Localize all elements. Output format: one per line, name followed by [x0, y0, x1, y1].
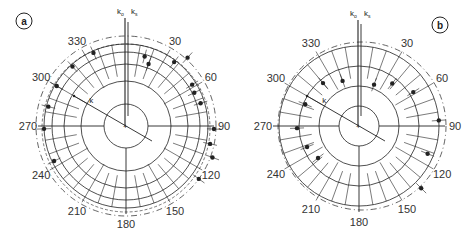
angle-label-180: 180 — [350, 216, 368, 228]
radial-spoke — [112, 45, 118, 77]
data-point — [208, 142, 212, 146]
angle-label-150: 150 — [166, 205, 184, 217]
angle-label-300: 300 — [267, 72, 285, 84]
radial-spoke — [345, 173, 351, 205]
radial-spoke — [164, 82, 202, 104]
data-point — [316, 156, 320, 160]
data-point — [55, 84, 59, 88]
angle-label-120: 120 — [433, 168, 451, 180]
data-point — [46, 104, 50, 108]
data-point — [190, 82, 194, 86]
radial-spoke — [173, 143, 203, 154]
radial-spoke — [45, 135, 77, 141]
radial-spoke — [395, 83, 433, 105]
radial-spoke — [164, 148, 202, 170]
radial-spoke — [280, 112, 312, 118]
radial-spoke — [380, 162, 402, 200]
angle-label-270: 270 — [254, 120, 272, 132]
radial-spoke — [50, 148, 88, 170]
radial-spoke — [367, 47, 373, 79]
angle-label-30: 30 — [169, 35, 181, 47]
radial-spoke — [404, 99, 434, 110]
data-point — [411, 90, 415, 94]
panel-label-b: b — [437, 20, 443, 31]
angle-label-60: 60 — [436, 72, 448, 84]
radial-spoke — [395, 147, 433, 169]
radial-spoke — [316, 162, 338, 200]
angle-label-330: 330 — [68, 35, 86, 47]
radial-spoke — [148, 50, 170, 88]
angle-label-210: 210 — [302, 203, 320, 215]
angle-label-210: 210 — [68, 205, 86, 217]
center-marker: + — [356, 122, 361, 131]
radial-spoke — [367, 173, 373, 205]
radial-spoke — [135, 175, 141, 207]
data-point — [142, 54, 146, 58]
radial-spoke — [284, 142, 314, 153]
k0-label: ko — [350, 9, 357, 19]
polar-diagram-figure: 306090120150180210240270300330koksk+a306… — [0, 0, 476, 238]
angle-label-30: 30 — [401, 37, 413, 49]
radial-spoke — [98, 173, 109, 203]
data-point — [340, 79, 344, 83]
data-point — [321, 81, 325, 85]
radial-spoke — [49, 98, 79, 109]
radial-spoke — [316, 52, 338, 90]
radial-spoke — [406, 134, 438, 140]
center-marker: + — [123, 122, 128, 131]
radial-spoke — [82, 50, 104, 88]
ks-label: ks — [364, 9, 371, 19]
data-point — [425, 152, 429, 156]
radial-spoke — [406, 112, 438, 118]
angle-label-330: 330 — [302, 37, 320, 49]
radial-spoke — [332, 171, 343, 201]
k0-label: ko — [117, 7, 124, 17]
radial-spoke — [175, 135, 207, 141]
ks-label: ks — [131, 7, 138, 17]
data-point — [305, 145, 309, 149]
radial-spoke — [280, 134, 312, 140]
radial-spoke — [143, 173, 154, 203]
data-point — [70, 64, 74, 68]
data-point — [295, 126, 299, 130]
radial-spoke — [284, 99, 314, 110]
data-point — [198, 101, 202, 105]
angle-label-120: 120 — [202, 169, 220, 181]
radial-spoke — [49, 143, 79, 154]
radial-spoke — [175, 112, 207, 118]
angle-label-300: 300 — [32, 71, 50, 83]
data-point — [91, 51, 95, 55]
angle-label-90: 90 — [449, 120, 461, 132]
data-point — [437, 118, 441, 122]
panel-label-a: a — [21, 16, 27, 27]
data-point — [172, 60, 176, 64]
radial-spoke — [375, 171, 386, 201]
data-point — [192, 90, 196, 94]
angle-label-240: 240 — [32, 169, 50, 181]
radial-spoke — [98, 49, 109, 79]
data-point — [212, 127, 216, 131]
data-point — [146, 62, 150, 66]
angle-label-180: 180 — [117, 218, 135, 230]
radial-spoke — [345, 47, 351, 79]
data-point — [197, 177, 201, 181]
radial-spoke — [135, 45, 141, 77]
data-point — [390, 81, 394, 85]
k-vector-tail — [73, 95, 75, 97]
radial-spoke — [82, 164, 104, 202]
data-point — [210, 155, 214, 159]
angle-label-150: 150 — [398, 203, 416, 215]
angle-label-90: 90 — [218, 120, 230, 132]
radial-spoke — [375, 51, 386, 81]
data-point — [372, 82, 376, 86]
k-vector — [74, 96, 152, 141]
radial-spoke — [45, 112, 77, 118]
polar-panel-b: 306090120150180210240270300330koksk+b — [254, 9, 461, 228]
data-point — [52, 159, 56, 163]
data-point — [419, 186, 423, 190]
k-vector-tail — [306, 95, 308, 97]
k-vector — [307, 96, 385, 141]
angle-label-60: 60 — [205, 71, 217, 83]
angle-label-270: 270 — [19, 120, 37, 132]
data-point — [42, 127, 46, 131]
